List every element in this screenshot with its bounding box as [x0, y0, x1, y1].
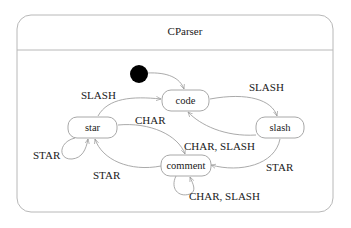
state-label: comment [166, 160, 205, 171]
state-code[interactable]: code [162, 90, 209, 111]
label-comment-self-loop: CHAR, SLASH [189, 190, 260, 202]
label-comment-to-star: STAR [93, 169, 121, 181]
state-slash[interactable]: slash [256, 117, 304, 138]
state-label: slash [270, 122, 292, 133]
state-label: code [176, 95, 196, 106]
label-slash-to-code: CHAR, SLASH [184, 140, 255, 152]
state-label: star [85, 122, 101, 133]
label-star-to-code: SLASH [81, 89, 116, 101]
label-star-to-comment: CHAR [135, 114, 166, 126]
state-star[interactable]: star [68, 117, 117, 138]
state-diagram: CParser code star slash comment SLASH SL… [0, 0, 351, 228]
label-star-self-loop: STAR [33, 149, 61, 161]
initial-pseudostate [130, 65, 148, 83]
state-comment[interactable]: comment [161, 155, 211, 176]
state-machine-frame [17, 15, 333, 212]
label-code-to-slash: SLASH [249, 81, 284, 93]
diagram-title: CParser [168, 25, 203, 37]
label-slash-to-comment: STAR [266, 161, 294, 173]
